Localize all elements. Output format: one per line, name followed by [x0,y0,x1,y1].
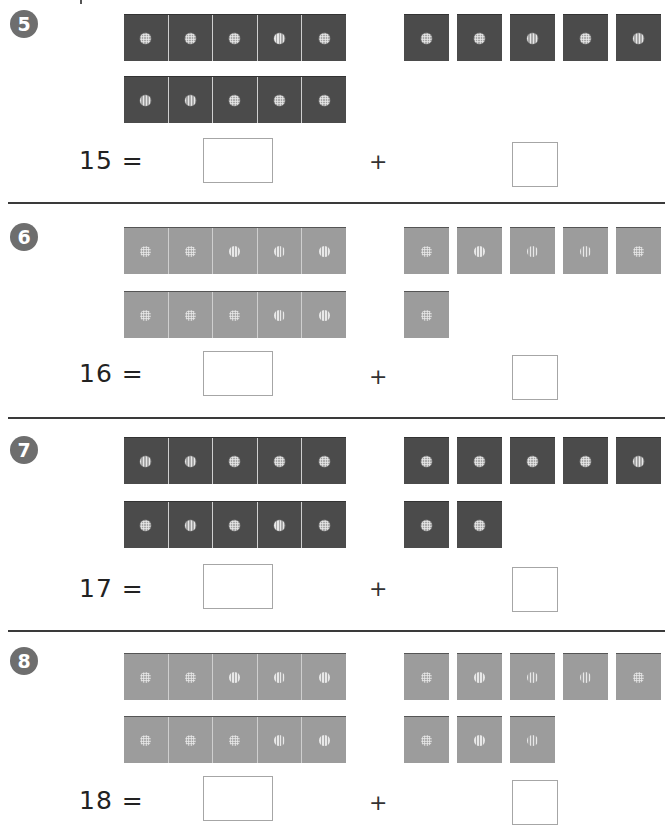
section-divider [8,202,665,204]
counter-cell [169,438,214,484]
counter-dot-icon [421,310,432,321]
ones-tile [457,716,502,763]
counter-dot-icon [140,33,151,44]
ones-tile [404,716,449,763]
counter-cell [302,438,346,484]
counter-dot-icon [185,672,196,683]
counter-dot-icon [421,456,432,467]
counter-dot-icon [185,246,196,257]
plus-sign: + [369,792,387,814]
ones-tiles-row-2 [404,716,555,763]
tens-answer-box[interactable] [203,564,273,609]
problem-number-badge: 7 [10,436,38,464]
counter-dot-icon [319,246,330,257]
counter-dot-icon [274,672,285,683]
counter-cell [258,15,303,61]
counter-dot-icon [229,310,240,321]
ones-answer-box[interactable] [512,780,558,825]
counter-dot-icon [140,456,151,467]
ones-tile [510,653,555,700]
equation-label: 17 = [79,576,144,601]
counter-dot-icon [527,33,538,44]
equation-label: 15 = [79,148,144,173]
tens-answer-box[interactable] [203,351,273,396]
counter-cell [302,77,346,123]
ones-tile [404,501,449,548]
counter-dot-icon [580,246,591,257]
ones-tile [404,14,449,61]
counter-dot-icon [319,95,330,106]
section-divider [8,417,665,419]
tens-answer-box[interactable] [203,138,273,183]
counter-cell [258,717,303,763]
counter-dot-icon [140,735,151,746]
counter-dot-icon [527,672,538,683]
counter-dot-icon [140,95,151,106]
counter-cell [169,717,214,763]
counter-dot-icon [185,310,196,321]
counter-dot-icon [319,310,330,321]
counter-dot-icon [274,456,285,467]
counter-cell [258,438,303,484]
counter-cell [213,77,258,123]
counter-dot-icon [140,520,151,531]
counter-dot-icon [319,456,330,467]
ten-frame-row-2 [124,501,346,548]
counter-cell [213,15,258,61]
counter-dot-icon [140,246,151,257]
counter-dot-icon [229,33,240,44]
equation-label: 16 = [79,361,144,386]
counter-cell [302,654,346,700]
counter-dot-icon [474,672,485,683]
counter-dot-icon [319,33,330,44]
counter-dot-icon [633,456,644,467]
counter-dot-icon [274,520,285,531]
counter-dot-icon [421,672,432,683]
counter-dot-icon [633,246,644,257]
counter-dot-icon [474,520,485,531]
ones-tile [457,14,502,61]
counter-cell [302,502,346,548]
ones-tile [563,437,608,484]
ones-answer-box[interactable] [512,355,558,400]
ones-tile [616,653,661,700]
counter-cell [302,228,346,274]
ones-tile [510,716,555,763]
counter-dot-icon [421,520,432,531]
ones-answer-box[interactable] [512,567,558,612]
ten-frame-row-1 [124,653,346,700]
counter-cell [258,228,303,274]
ones-tile [404,653,449,700]
counter-dot-icon [527,456,538,467]
section-divider [8,630,665,632]
tens-answer-box[interactable] [203,776,273,821]
counter-dot-icon [580,672,591,683]
counter-dot-icon [474,735,485,746]
counter-dot-icon [474,456,485,467]
ones-answer-box[interactable] [512,142,558,187]
ones-tile [563,14,608,61]
counter-cell [124,502,169,548]
ones-tile [457,437,502,484]
counter-dot-icon [274,246,285,257]
ones-tile [510,437,555,484]
counter-dot-icon [229,735,240,746]
counter-cell [124,77,169,123]
ones-tile [616,227,661,274]
counter-dot-icon [185,520,196,531]
counter-cell [213,228,258,274]
ones-tile [510,14,555,61]
counter-dot-icon [474,33,485,44]
counter-dot-icon [229,95,240,106]
equation-label: 18 = [79,788,144,813]
ones-tiles-row-1 [404,227,661,274]
counter-cell [169,502,214,548]
ones-tiles-row-1 [404,653,661,700]
counter-dot-icon [319,672,330,683]
counter-cell [302,292,346,338]
counter-cell [169,77,214,123]
ten-frame-row-2 [124,716,346,763]
counter-dot-icon [421,246,432,257]
counter-cell [124,717,169,763]
plus-sign: + [369,151,387,173]
